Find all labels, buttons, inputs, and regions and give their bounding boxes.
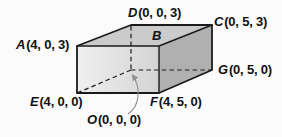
vertex-label-f: F(4, 5, 0) <box>150 95 202 109</box>
vertex-letter-b: B <box>152 28 162 43</box>
vertex-label-d: D(0, 0, 3) <box>128 6 181 20</box>
vertex-letter-c: C <box>214 14 224 29</box>
vertex-label-o: O(0, 0, 0) <box>87 113 141 127</box>
vertex-coords-a: (4, 0, 3) <box>26 37 69 52</box>
vertex-label-c: C(0, 5, 3) <box>214 15 267 29</box>
vertex-coords-f: (4, 5, 0) <box>159 94 202 109</box>
vertex-coords-g: (0, 5, 0) <box>229 62 272 77</box>
vertex-coords-d: (0, 0, 3) <box>138 5 181 20</box>
vertex-letter-f: F <box>150 94 159 109</box>
vertex-label-g: G(0, 5, 0) <box>218 63 272 77</box>
vertex-coords-c: (0, 5, 3) <box>224 14 267 29</box>
vertex-letter-a: A <box>16 37 26 52</box>
vertex-coords-e: (4, 0, 0) <box>39 94 82 109</box>
figure-canvas: A(4, 0, 3) B C(0, 5, 3) D(0, 0, 3) E(4, … <box>0 0 282 137</box>
vertex-letter-g: G <box>218 62 229 77</box>
vertex-label-e: E(4, 0, 0) <box>30 95 82 109</box>
vertex-letter-d: D <box>128 5 138 20</box>
vertex-coords-o: (0, 0, 0) <box>98 112 141 127</box>
vertex-label-b: B <box>152 29 162 43</box>
vertex-label-a: A(4, 0, 3) <box>16 38 69 52</box>
vertex-letter-o: O <box>87 112 98 127</box>
